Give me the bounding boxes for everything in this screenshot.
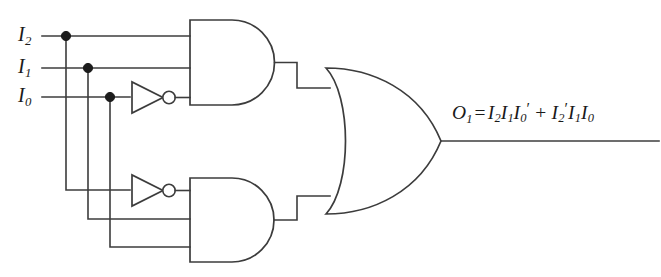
- input-label-i0-subscript: 0: [25, 95, 31, 109]
- inverter-bottom-bubble-icon: [163, 184, 175, 196]
- wire-i1-branch-down: [88, 68, 190, 219]
- output-expression: O1=I2I1I0′+I2′I1I0: [452, 100, 594, 127]
- wire-i2-branch-down: [66, 36, 130, 190]
- term2-var2-base: I: [581, 102, 588, 123]
- or-gate: [326, 68, 441, 214]
- input-label-i1-base: I: [18, 55, 25, 77]
- input-label-i2-subscript: 2: [25, 34, 31, 48]
- input-label-i2-base: I: [18, 23, 25, 45]
- junction-dot-i0: [105, 92, 114, 101]
- output-base: O: [452, 102, 466, 123]
- input-label-i0: I0: [18, 84, 31, 110]
- inverter-top-bubble-icon: [163, 91, 175, 103]
- term-2: I2′I1I0: [551, 102, 594, 123]
- and-gate-top: [190, 20, 275, 105]
- wire-i0-branch-down: [110, 97, 190, 247]
- wire-and-top-output: [275, 63, 331, 89]
- inverter-top-triangle: [132, 82, 163, 113]
- junction-dot-i2: [61, 31, 70, 40]
- plus-sign: +: [530, 102, 551, 123]
- input-label-i0-base: I: [18, 84, 25, 106]
- junction-dot-i1: [83, 63, 92, 72]
- term2-var2-subscript: 0: [588, 112, 594, 126]
- input-label-i2: I2: [18, 23, 31, 49]
- input-label-i1-subscript: 1: [25, 66, 31, 80]
- equals-sign: =: [473, 102, 488, 123]
- wire-and-bottom-output: [274, 196, 330, 220]
- output-subscript: 1: [466, 112, 472, 126]
- circuit-schematic: [0, 0, 661, 277]
- inverter-bottom-triangle: [132, 175, 163, 206]
- input-label-i1: I1: [18, 55, 31, 81]
- logic-circuit-figure: I2 I1 I0 O1=I2I1I0′+I2′I1I0: [0, 0, 661, 277]
- term-1: I2I1I0′: [488, 102, 531, 123]
- term2-var1-base: I: [568, 102, 575, 123]
- and-gate-bottom: [190, 178, 274, 262]
